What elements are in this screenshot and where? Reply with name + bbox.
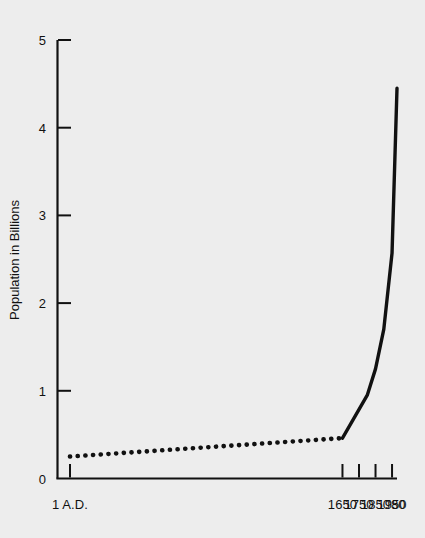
population-growth-chart: Population in Billions 012345 1 A.D.1650… (0, 0, 425, 538)
y-tick-label: 1 (18, 383, 46, 398)
y-tick-label: 4 (18, 120, 46, 135)
y-axis-ticks (58, 40, 71, 391)
x-tick-label: '80 (388, 497, 405, 512)
y-tick-label: 5 (18, 33, 46, 48)
chart-plot-area (0, 0, 425, 538)
y-tick-label: 0 (18, 471, 46, 486)
x-tick-label: 1 A.D. (52, 497, 88, 512)
chart-axes (56, 40, 397, 479)
series-population-solid (342, 88, 397, 438)
x-axis-ticks (70, 464, 392, 478)
y-tick-label: 2 (18, 296, 46, 311)
y-tick-label: 3 (18, 208, 46, 223)
series-estimated-dotted (70, 438, 342, 456)
